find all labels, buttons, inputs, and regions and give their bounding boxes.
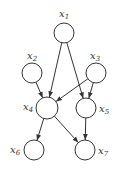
node-label-x7: x7 [98, 145, 109, 158]
node-x5: x5 [76, 98, 110, 118]
node-circle-x5 [76, 98, 96, 118]
node-label-x3: x3 [90, 50, 101, 63]
node-label-x1: x1 [59, 8, 69, 21]
node-circle-x7 [75, 140, 95, 160]
node-label-x4: x4 [23, 101, 33, 114]
node-x3: x3 [86, 50, 106, 83]
dag-diagram: x1x2x3x4x5x6x7 [0, 0, 115, 169]
node-label-x2: x2 [27, 50, 38, 63]
edge-x1-to-x4 [49, 43, 61, 98]
node-circle-x3 [86, 63, 106, 83]
edge-x4-to-x6 [37, 119, 44, 141]
node-circle-x6 [24, 140, 44, 160]
node-circle-x1 [54, 23, 74, 43]
node-circle-x4 [36, 97, 58, 119]
edge-x3-to-x5 [89, 83, 94, 99]
node-x1: x1 [54, 8, 74, 43]
node-circle-x2 [22, 63, 42, 83]
edges-group [36, 43, 93, 143]
edge-x4-to-x7 [54, 116, 78, 142]
node-x6: x6 [10, 140, 44, 160]
edge-x2-to-x4 [36, 82, 43, 98]
node-label-x6: x6 [10, 144, 21, 157]
node-x7: x7 [75, 140, 109, 160]
edge-x5-to-x7 [85, 118, 86, 140]
nodes-group: x1x2x3x4x5x6x7 [10, 8, 110, 160]
node-x2: x2 [22, 50, 42, 83]
node-x4: x4 [23, 97, 58, 119]
edge-x1-to-x5 [67, 43, 83, 99]
node-label-x5: x5 [99, 103, 110, 116]
